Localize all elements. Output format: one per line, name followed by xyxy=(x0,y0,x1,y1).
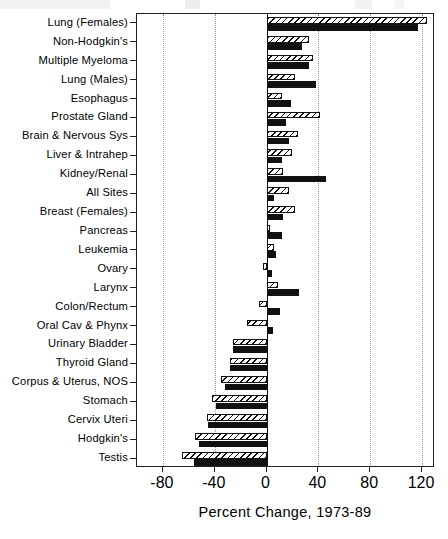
y-axis-tick xyxy=(130,325,136,326)
bar-mortality xyxy=(267,214,284,221)
y-axis-tick xyxy=(130,401,136,402)
y-axis-label: Non-Hodgkin's xyxy=(0,36,128,47)
bar-mortality xyxy=(267,43,302,50)
y-axis-tick xyxy=(130,117,136,118)
y-axis-tick xyxy=(130,458,136,459)
y-axis-tick xyxy=(130,344,136,345)
y-axis-tick xyxy=(130,22,136,23)
y-axis-label: Ovary xyxy=(0,263,128,274)
bar-incidence xyxy=(195,433,266,440)
y-axis-tick xyxy=(130,212,136,213)
bar-mortality xyxy=(225,384,266,391)
y-axis-label: Esophagus xyxy=(0,93,128,104)
bar-mortality xyxy=(267,195,275,202)
bar-mortality xyxy=(267,289,299,296)
bar-mortality xyxy=(267,138,289,145)
y-axis-label: Breast (Females) xyxy=(0,206,128,217)
plot-area xyxy=(136,13,434,467)
y-axis-tick xyxy=(130,363,136,364)
bar-incidence xyxy=(267,187,289,194)
bar-incidence xyxy=(267,112,320,119)
bar-incidence xyxy=(267,17,428,24)
bar-mortality xyxy=(267,24,419,31)
y-axis-label: Prostate Gland xyxy=(0,111,128,122)
y-axis-label: Stomach xyxy=(0,395,128,406)
bar-row xyxy=(137,109,433,128)
bar-row xyxy=(137,14,433,33)
y-axis-tick xyxy=(130,98,136,99)
y-axis-tick xyxy=(130,420,136,421)
x-axis-tick xyxy=(421,467,422,472)
bar-row xyxy=(137,90,433,109)
bar-row xyxy=(137,430,433,449)
bar-row xyxy=(137,165,433,184)
y-axis-label: Pancreas xyxy=(0,225,128,236)
y-axis-tick xyxy=(130,79,136,80)
bar-mortality xyxy=(267,62,310,69)
y-axis-tick xyxy=(130,41,136,42)
bar-incidence xyxy=(207,414,267,421)
bar-row xyxy=(137,71,433,90)
bar-row xyxy=(137,279,433,298)
y-axis-tick xyxy=(130,287,136,288)
y-axis-label: Lung (Females) xyxy=(0,17,128,28)
y-axis-label: Larynx xyxy=(0,282,128,293)
bar-row xyxy=(137,392,433,411)
bar-incidence xyxy=(267,74,296,81)
bar-row xyxy=(137,128,433,147)
y-axis-label: Kidney/Renal xyxy=(0,168,128,179)
y-axis-tick xyxy=(130,382,136,383)
bar-row xyxy=(137,336,433,355)
y-axis-tick xyxy=(130,249,136,250)
bar-mortality xyxy=(267,100,292,107)
y-axis-tick xyxy=(130,174,136,175)
x-axis-tick xyxy=(266,467,267,472)
bar-incidence xyxy=(267,206,296,213)
y-axis-label: Hodgkin's xyxy=(0,433,128,444)
bar-mortality xyxy=(194,459,267,466)
y-axis-label: Multiple Myeloma xyxy=(0,55,128,66)
bar-incidence xyxy=(259,301,267,308)
bar-incidence xyxy=(267,93,283,100)
y-axis-label: Urinary Bladder xyxy=(0,338,128,349)
x-axis-tick xyxy=(162,467,163,472)
bar-incidence xyxy=(267,225,271,232)
y-axis-tick xyxy=(130,60,136,61)
bar-mortality xyxy=(267,157,283,164)
bar-incidence xyxy=(247,320,266,327)
bar-mortality xyxy=(216,403,267,410)
bar-row xyxy=(137,373,433,392)
y-axis-label: Oral Cav & Phynx xyxy=(0,320,128,331)
y-axis-label: Corpus & Uterus, NOS xyxy=(0,376,128,387)
bar-incidence xyxy=(212,395,266,402)
y-axis-label: Cervix Uteri xyxy=(0,414,128,425)
y-axis-tick xyxy=(130,268,136,269)
y-axis-label: Colon/Rectum xyxy=(0,301,128,312)
bar-mortality xyxy=(208,422,266,429)
y-axis-label: All Sites xyxy=(0,187,128,198)
bar-incidence xyxy=(267,168,284,175)
bar-mortality xyxy=(267,232,283,239)
bar-row xyxy=(137,317,433,336)
bar-incidence xyxy=(263,263,267,270)
bar-row xyxy=(137,355,433,374)
bar-mortality xyxy=(267,327,273,334)
bar-row xyxy=(137,203,433,222)
bar-incidence xyxy=(221,376,266,383)
bar-row xyxy=(137,33,433,52)
bar-incidence xyxy=(267,55,314,62)
y-axis-tick xyxy=(130,306,136,307)
bar-row xyxy=(137,146,433,165)
bar-mortality xyxy=(199,441,266,448)
y-axis-label: Thyroid Gland xyxy=(0,357,128,368)
x-axis-title: Percent Change, 1973-89 xyxy=(136,504,434,520)
bar-incidence xyxy=(233,339,267,346)
bar-mortality xyxy=(267,270,272,277)
bar-incidence xyxy=(267,131,298,138)
y-axis-label: Leukemia xyxy=(0,244,128,255)
y-axis-tick xyxy=(130,193,136,194)
percent-change-bar-chart: Lung (Females)Non-Hodgkin'sMultiple Myel… xyxy=(0,0,448,539)
y-axis-tick xyxy=(130,439,136,440)
x-axis-tick xyxy=(317,467,318,472)
bar-incidence xyxy=(267,282,279,289)
